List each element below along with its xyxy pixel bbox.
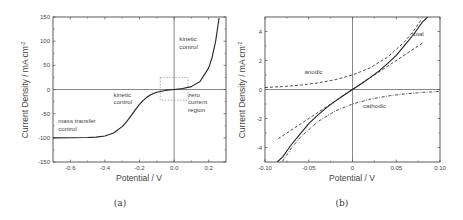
annotation-label: zerocurrentregion (188, 91, 208, 113)
annotations: totalanodiccathodic (304, 30, 423, 110)
annotation-label: kineticcontrol (179, 35, 198, 50)
axis-ticks: -0.10-0.0500.050.10420-2-4 (257, 17, 447, 171)
y-tick-label: 2 (259, 58, 263, 64)
y-tick-label: -100 (38, 135, 51, 141)
y-tick-label: 4 (259, 29, 263, 35)
annotations: kineticcontrolkineticcontrolzerocurrentr… (58, 35, 207, 132)
x-tick-label: 0.10 (434, 165, 446, 171)
x-tick-label: 0.0 (170, 165, 179, 171)
x-tick-label: 0.2 (205, 165, 214, 171)
x-tick-label: 0 (351, 165, 355, 171)
y-tick-label: 150 (40, 14, 51, 20)
x-tick-label: -0.10 (258, 165, 272, 171)
annotation-label: mass transfercontrol (58, 117, 95, 132)
zero-lines (53, 17, 226, 162)
chart-panel-a: -0.6-0.4-0.20.00.2150100500-50-100-150 k… (20, 14, 226, 208)
x-tick-label: -0.2 (134, 165, 145, 171)
x-tick-label: -0.6 (65, 165, 76, 171)
caption-b: (b) (336, 198, 349, 208)
figure: -0.6-0.4-0.20.00.2150100500-50-100-150 k… (0, 0, 463, 220)
x-tick-label: 0.05 (390, 165, 402, 171)
y-tick-label: 50 (43, 62, 50, 68)
x-tick-label: -0.05 (302, 165, 316, 171)
x-tick-label: -0.4 (100, 165, 111, 171)
y-tick-label: -4 (257, 145, 263, 151)
chart-panel-b: -0.10-0.0500.050.10420-2-4 totalanodicca… (237, 17, 446, 208)
x-axis-label: Potential / V (116, 173, 162, 183)
annotation-label: anodic (304, 68, 322, 75)
caption-a: (a) (114, 198, 126, 208)
x-axis-label: Potential / V (329, 173, 375, 183)
annotation-label: kineticcontrol (114, 91, 133, 106)
y-tick-label: 100 (40, 38, 51, 44)
y-tick-label: 0 (259, 87, 263, 93)
series-linear-approximation (278, 43, 422, 139)
y-axis-label: Current Density / mA cm-2 (237, 42, 247, 139)
y-tick-label: -2 (257, 116, 263, 122)
y-tick-label: -150 (38, 159, 51, 165)
y-axis-label: Current Density / mA cm-2 (20, 42, 30, 139)
y-tick-label: 0 (47, 87, 51, 93)
annotation-label: cathodic (363, 102, 386, 109)
annotation-label: total (412, 30, 424, 37)
y-tick-label: -50 (41, 111, 50, 117)
